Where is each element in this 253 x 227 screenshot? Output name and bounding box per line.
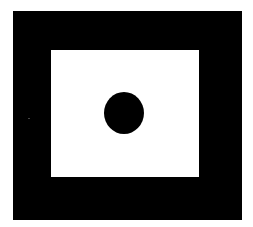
center-dot-circle: [104, 92, 144, 134]
figure-canvas: [0, 0, 253, 227]
speck-artifact: [28, 118, 30, 119]
